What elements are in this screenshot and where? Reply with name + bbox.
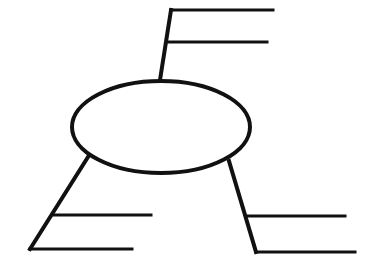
center-node bbox=[72, 81, 250, 173]
branch-right bbox=[229, 161, 355, 252]
branch-top-stem bbox=[160, 10, 171, 80]
branch-top bbox=[160, 10, 273, 80]
branch-right-stem bbox=[229, 161, 256, 252]
center-ellipse bbox=[72, 81, 250, 173]
branch-left-stem bbox=[30, 157, 88, 249]
spider-map-diagram bbox=[0, 0, 376, 276]
